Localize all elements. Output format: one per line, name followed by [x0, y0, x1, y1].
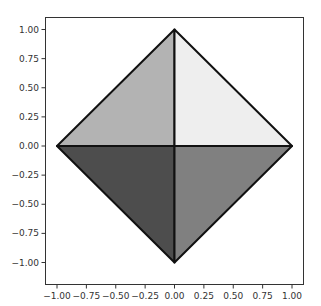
x-tick-label: 0.00: [164, 291, 184, 301]
y-tick-label: 1.00: [19, 25, 39, 35]
y-axis-ticks: 1.000.750.500.250.00−0.25−0.50−0.75−1.00: [11, 25, 45, 268]
diamond-polygons: [57, 30, 292, 263]
x-tick-label: 0.75: [253, 291, 273, 301]
y-tick-label: −1.00: [11, 258, 39, 268]
y-tick-label: −0.25: [11, 170, 39, 180]
y-tick-label: 0.50: [19, 83, 39, 93]
x-axis-ticks: −1.00−0.75−0.50−0.250.000.250.500.751.00: [43, 285, 302, 302]
x-tick-label: 1.00: [282, 291, 302, 301]
polygon-3: [175, 146, 293, 263]
y-tick-label: 0.25: [19, 112, 39, 122]
x-tick-label: −1.00: [43, 291, 71, 301]
x-tick-label: −0.25: [131, 291, 159, 301]
x-tick-label: 0.50: [223, 291, 243, 301]
polygon-0: [57, 30, 175, 147]
x-tick-label: 0.25: [194, 291, 214, 301]
y-tick-label: −0.50: [11, 199, 39, 209]
polygon-2: [57, 146, 175, 263]
y-tick-label: 0.00: [19, 141, 39, 151]
y-tick-label: −0.75: [11, 228, 39, 238]
x-tick-label: −0.75: [73, 291, 101, 301]
chart: −1.00−0.75−0.50−0.250.000.250.500.751.00…: [0, 0, 321, 306]
polygon-1: [175, 30, 293, 147]
y-tick-label: 0.75: [19, 54, 39, 64]
x-tick-label: −0.50: [102, 291, 130, 301]
